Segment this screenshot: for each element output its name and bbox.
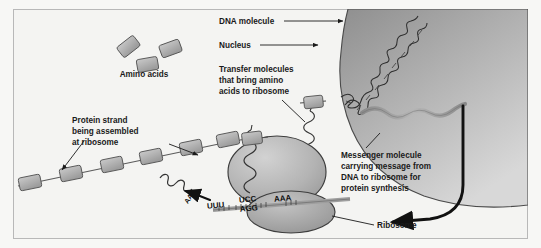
label-nucleus: Nucleus [219, 41, 251, 50]
label-protein-line-3: at ribosome [72, 138, 119, 147]
label-transfer-molecules: Transfer molecules that bring amino acid… [219, 65, 294, 96]
site-a-codon-label: AGG [239, 203, 258, 214]
diagram-canvas: UUU [0, 0, 541, 248]
label-dna-molecule: DNA molecule [219, 17, 275, 26]
label-messenger-line-3: DNA to ribosome for [341, 173, 422, 182]
exiting-codon-label: UUU [207, 200, 225, 210]
label-messenger-line-4: protein synthesis [341, 184, 409, 193]
label-transfer-line-1: Transfer molecules [219, 65, 294, 74]
protein-synthesis-diagram: UUU [0, 0, 541, 248]
label-protein-line-2: being assembled [72, 127, 138, 136]
amino-acid-block [303, 95, 323, 109]
label-transfer-line-2: that bring amino [219, 76, 283, 85]
amino-acid-block [241, 131, 262, 146]
label-amino-acids: Amino acids [120, 70, 169, 79]
label-transfer-line-3: acids to ribosome [219, 87, 290, 96]
next-codon-label: AAA [274, 193, 292, 203]
label-ribosome: Ribosome [377, 221, 417, 230]
label-protein-line-1: Protein strand [72, 116, 128, 125]
label-messenger-line-1: Messenger molecule [341, 151, 422, 160]
label-messenger-line-2: carrying message from [341, 162, 431, 171]
